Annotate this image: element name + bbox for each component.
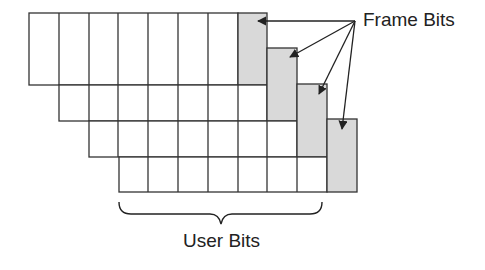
user-bits-brace [119,202,322,224]
frame-bit-3 [297,84,327,157]
frame-bit-4 [327,119,357,192]
user-bits-label: User Bits [183,230,260,252]
bit-row-1 [29,13,267,85]
frame-bit-1 [238,13,267,85]
frame-bit-2 [267,48,297,121]
frame-bits-label: Frame Bits [363,9,455,31]
